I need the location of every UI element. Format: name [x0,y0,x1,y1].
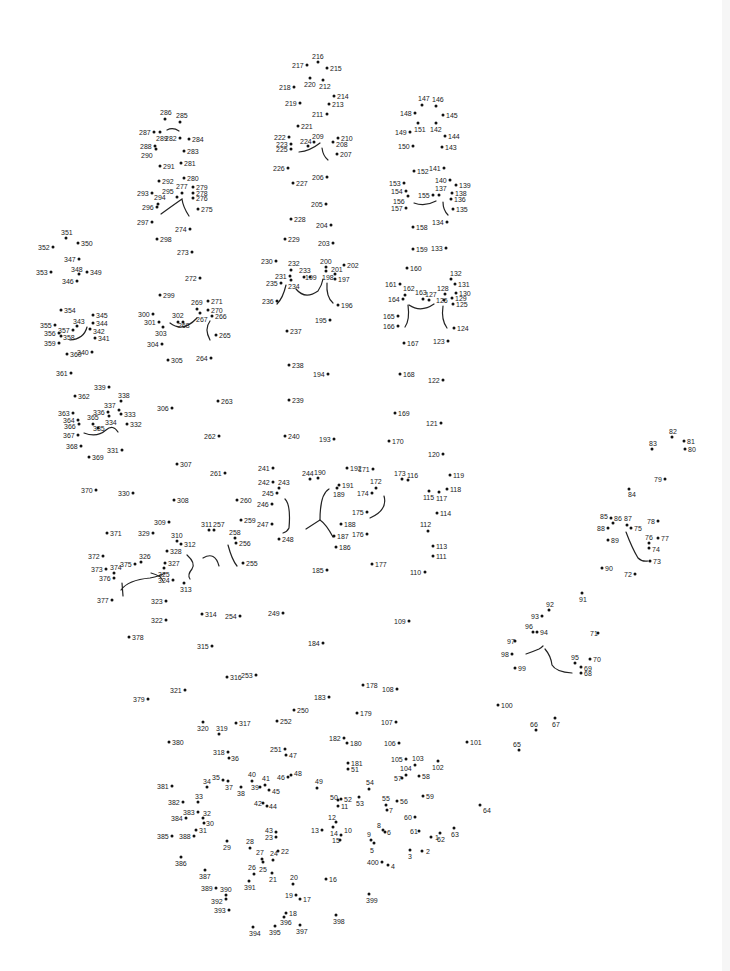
guide-stroke [327,283,333,303]
dot-number-label: 8 [377,822,381,829]
dot-number-label: 211 [312,111,323,118]
dot-number-label: 90 [605,565,613,572]
puzzle-dot [406,267,409,270]
puzzle-dot [399,283,402,286]
puzzle-dot [329,319,332,322]
puzzle-dot [292,182,295,185]
puzzle-dot [293,709,296,712]
puzzle-dot [113,572,116,575]
dot-number-label: 157 [391,205,403,212]
puzzle-dot [288,136,291,139]
dot-number-label: 233 [299,267,311,274]
dot-number-label: 309 [154,519,166,526]
dot-number-label: 317 [239,720,251,727]
puzzle-dot [332,141,335,144]
dot-number-label: 151 [414,126,426,133]
puzzle-dot [446,488,449,491]
puzzle-dot [152,532,155,535]
puzzle-dot [442,114,445,117]
puzzle-dot [248,880,251,883]
dot-number-label: 207 [340,151,352,158]
dot-number-label: 89 [611,537,619,544]
dot-number-label: 393 [214,907,226,914]
guide-stroke [161,199,189,216]
dot-number-label: 118 [450,486,461,493]
puzzle-dot [338,484,341,487]
dot-number-label: 299 [163,292,175,299]
puzzle-dot [372,468,375,471]
dot-number-label: 147 [418,95,430,102]
puzzle-dot [180,543,183,546]
dot-number-label: 331 [107,447,119,454]
dot-number-label: 278 [196,190,208,197]
dot-number-label: 25 [259,866,267,873]
dot-number-label: 60 [404,814,412,821]
puzzle-dot [446,221,449,224]
dot-number-label: 13 [311,827,319,834]
puzzle-dot [159,294,162,297]
dot-number-label: 293 [137,190,149,197]
puzzle-dot [155,148,158,151]
dot-number-label: 196 [341,302,353,309]
puzzle-dot [313,141,316,144]
dot-number-label: 2 [426,848,430,855]
dot-number-label: 244 [302,470,314,477]
puzzle-dot [408,620,411,623]
puzzle-dot [80,445,83,448]
dot-number-label: 32 [203,810,211,817]
dot-number-label: 257 [213,521,225,528]
puzzle-dot [275,831,278,834]
dot-number-label: 133 [431,245,443,252]
dot-number-label: 225 [276,146,288,153]
dot-number-label: 333 [124,411,136,418]
puzzle-dot [274,925,277,928]
puzzle-dot [235,542,238,545]
dot-number-label: 319 [216,725,228,732]
puzzle-dot [120,400,123,403]
puzzle-dot [164,118,167,121]
dot-number-label: 291 [163,163,175,170]
dot-number-label: 53 [356,800,364,807]
puzzle-dot [272,481,275,484]
guide-stroke [122,583,123,596]
dot-number-label: 31 [199,827,207,834]
puzzle-dot [292,883,295,886]
puzzle-dot [278,487,281,490]
puzzle-dot [167,359,170,362]
puzzle-dot [111,599,114,602]
dot-number-label: 222 [274,134,286,141]
dot-number-label: 234 [288,283,300,290]
puzzle-dot [268,789,271,792]
puzzle-dot [226,676,229,679]
puzzle-dot [255,674,258,677]
puzzle-dot [610,517,613,520]
dot-number-label: 189 [333,491,345,498]
dot-number-label: 205 [311,201,323,208]
dot-number-label: 43 [265,827,273,834]
puzzle-dot [332,826,335,829]
dot-number-label: 153 [389,180,401,187]
puzzle-dot [657,537,660,540]
puzzle-dot [657,520,660,523]
dot-number-label: 220 [304,81,316,88]
dot-number-label: 20 [290,874,298,881]
dot-number-label: 173 [394,470,406,477]
dot-number-label: 3 [408,853,412,860]
dot-number-label: 65 [513,741,521,748]
dot-number-label: 73 [653,558,661,565]
puzzle-dot [580,672,583,675]
dot-number-label: 33 [195,793,203,800]
guide-stroke [443,306,448,328]
dot-number-label: 262 [204,433,216,440]
dot-number-label: 138 [455,190,467,197]
puzzle-dot [439,832,442,835]
guide-stroke [207,321,210,340]
dot-number-label: 277 [176,183,188,190]
puzzle-dot [422,795,425,798]
dot-number-label: 183 [314,694,326,701]
dot-number-label: 10 [344,827,352,834]
puzzle-dot [271,523,274,526]
dot-number-label: 7 [389,807,393,814]
dot-number-label: 215 [330,65,342,72]
dot-number-label: 28 [246,838,254,845]
